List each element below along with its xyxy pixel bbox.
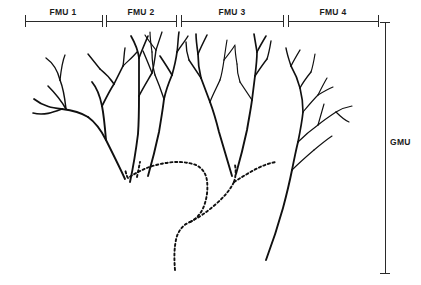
fmu-1-crown-seg-6: [46, 58, 60, 80]
fmu-2-right-crown-seg-3: [160, 56, 172, 75]
fmu-3-right-crown-seg-0: [236, 100, 252, 174]
fmu-1-mid-crown-seg-3: [114, 66, 123, 84]
fmu-1-mid-crown-seg-6: [123, 48, 125, 66]
fmu-3-left-crown-seg-0: [210, 102, 232, 176]
fmu-label-3: FMU 3: [202, 7, 262, 17]
fmu-2-right-crown-seg-2: [172, 52, 177, 75]
fmu-4-crown-seg-16: [318, 104, 324, 125]
fmu-4-crown-seg-9: [303, 95, 318, 112]
fmu-3-left-crown-seg-4: [198, 35, 207, 54]
fmu-label-4: FMU 4: [303, 7, 363, 17]
fmu-1-crown-seg-0: [88, 117, 125, 179]
fmu-3-right-crown-seg-7: [240, 82, 252, 100]
fmu-4-crown-seg-6: [291, 50, 300, 66]
fmu-3-right-crown-seg-4: [257, 36, 266, 52]
diagram-svg: [0, 0, 421, 285]
fmu-2-crown-seg-6: [143, 51, 152, 73]
fmu-1-mid-crown-seg-2: [102, 84, 114, 106]
gmu-trunk-left-to-crown: [125, 170, 128, 178]
gmu-trunk-right-branch: [234, 162, 276, 182]
gmu-trunk-fmu2-link: [137, 162, 140, 177]
fmu-1-crown-seg-1: [62, 109, 88, 117]
fmu-4-crown-seg-0: [266, 170, 292, 260]
fmu-2-crown-seg-3: [139, 36, 148, 58]
fmu-4-crown-seg-5: [286, 48, 291, 66]
fmu-4-crown-seg-18: [314, 136, 332, 150]
gmu-trunk-main: [174, 222, 190, 270]
fmu-1-mid-crown-seg-5: [88, 54, 100, 69]
fmu-1-crown-seg-3: [33, 109, 62, 114]
gmu-bracket-group: [380, 22, 390, 273]
gmu-label: GMU: [390, 137, 411, 147]
gmu-trunk-right-fork: [190, 182, 234, 222]
fmu-1-mid-crown-seg-4: [100, 69, 114, 84]
tree-group: [33, 32, 352, 270]
fmu-3-left-crown-seg-1: [201, 78, 210, 102]
fmu-3-right-crown-seg-3: [254, 34, 257, 52]
fmu-1-crown-seg-2: [34, 99, 62, 109]
fmu-3-right-crown-seg-9: [235, 46, 237, 64]
figure-canvas: FMU 1FMU 2FMU 3FMU 4 GMU: [0, 0, 421, 285]
fmu-3-left-crown-seg-6: [186, 42, 189, 60]
fmu-3-left-crown-seg-7: [210, 80, 220, 102]
fmu-2-crown-seg-0: [130, 96, 139, 182]
fmu-4-crown-seg-15: [336, 112, 349, 122]
fmu-1-mid-crown-seg-1: [92, 82, 102, 106]
fmu-4-crown-seg-8: [311, 54, 315, 72]
fmu-2-crown-seg-4: [139, 73, 152, 96]
fmu-1-crown-seg-7: [60, 55, 65, 80]
fmu-3-right-crown-seg-1: [252, 76, 255, 100]
fmu-2-right-crown-seg-8: [150, 32, 152, 52]
fmu-2-crown-seg-7: [156, 32, 162, 50]
fmu-2-right-crown-seg-1: [164, 75, 172, 99]
fmu-4-crown-seg-3: [300, 88, 303, 112]
fmu-3-left-crown-seg-8: [220, 60, 224, 80]
fmu-3-right-crown-seg-6: [267, 41, 271, 59]
fmu-3-left-crown-seg-3: [196, 34, 198, 54]
fmu-2-right-crown-seg-6: [155, 75, 164, 99]
fmu-label-1: FMU 1: [33, 7, 93, 17]
fmu-1-mid-crown-seg-7: [123, 52, 137, 66]
fmu-3-right-crown-seg-8: [237, 64, 240, 82]
fmu-4-crown-seg-7: [300, 72, 311, 88]
gmu-trunk-left-fork: [128, 162, 207, 222]
fmu-label-2: FMU 2: [111, 7, 171, 17]
fmu-4-crown-seg-4: [291, 66, 300, 88]
fmu-4-crown-seg-14: [336, 106, 352, 112]
